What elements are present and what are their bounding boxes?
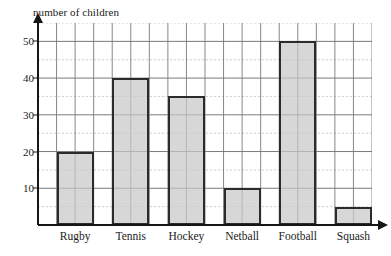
y-tick-label-50: 50 (6, 36, 34, 47)
y-tick-label-20: 20 (6, 146, 34, 157)
bar-football (279, 41, 316, 225)
y-axis-title: number of children (33, 6, 119, 19)
bar-tennis (112, 78, 149, 225)
bar-netball (224, 188, 261, 225)
bar-rugby (57, 152, 94, 225)
x-tick-label-hockey: Hockey (169, 229, 205, 244)
plot-area (38, 23, 372, 225)
y-axis-tick-labels: 1020304050 (0, 23, 34, 225)
arrow-right-icon (378, 220, 388, 230)
x-tick-label-tennis: Tennis (116, 229, 147, 244)
x-tick-label-squash: Squash (337, 229, 370, 244)
x-tick-label-rugby: Rugby (60, 229, 91, 244)
bar-squash (335, 207, 372, 225)
bar-chart: number of children 1020304050 RugbyTenni… (0, 0, 391, 256)
arrow-up-icon (33, 13, 43, 23)
x-axis-tick-labels: RugbyTennisHockeyNetballFootballSquash (38, 229, 372, 249)
y-tick-label-40: 40 (6, 73, 34, 84)
bar-hockey (168, 96, 205, 225)
bars-layer (38, 23, 372, 225)
y-tick-label-30: 30 (6, 109, 34, 120)
x-tick-label-football: Football (279, 229, 317, 244)
y-tick-label-10: 10 (6, 183, 34, 194)
x-tick-label-netball: Netball (225, 229, 259, 244)
x-axis-line (38, 224, 381, 226)
